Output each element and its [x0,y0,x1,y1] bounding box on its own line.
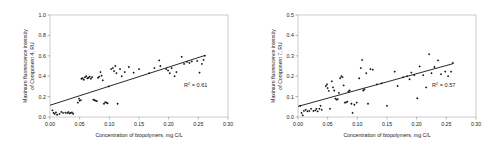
y-tick-label: 0.3 [287,53,294,59]
x-tick-label: 0.05 [75,121,85,127]
y-tick-label: 0.5 [287,12,294,18]
x-tick-label: 0.25 [193,121,203,127]
x-tick-label: 0.00 [45,121,55,127]
x-axis-title: Concentration of biopolymers, mg C/L [343,132,430,138]
r-squared-annotation: R2 = 0.57 [432,81,455,88]
y-tick-label: 0.0 [287,114,294,120]
y-tick-label: 0.6 [39,53,46,59]
x-tick-label: 0.10 [352,121,362,127]
scatter-plot-component-7: 0.000.050.100.150.200.250.300.00.10.20.3… [248,0,496,149]
y-tick-label: 0.8 [39,32,46,38]
y-axis-title-line2: of Component 7, RU [277,42,283,90]
r-squared-value: = 0.61 [190,82,207,88]
y-axis-title-line1: Maximum fluorescence intensity [22,29,28,103]
x-tick-label: 0.20 [412,121,422,127]
x-tick-label: 0.15 [382,121,392,127]
chart-panel-right: 0.000.050.100.150.200.250.300.00.10.20.3… [248,0,496,149]
x-tick-label: 0.10 [104,121,114,127]
x-tick-label: 0.25 [441,121,451,127]
y-tick-label: 0.0 [39,114,46,120]
x-tick-label: 0.00 [293,121,303,127]
two-panel-scatter-figure: 0.000.050.100.150.200.250.300.00.20.40.6… [0,0,496,149]
y-tick-label: 1.0 [39,12,46,18]
x-axis-title: Concentration of biopolymers, mg C/L [95,132,182,138]
r-squared-annotation: R2 = 0.61 [184,81,207,88]
y-tick-label: 0.4 [39,73,46,79]
y-tick-label: 0.1 [287,94,294,100]
plot-area-frame [298,15,476,117]
x-tick-label: 0.30 [471,121,481,127]
x-tick-label: 0.05 [323,121,333,127]
x-tick-label: 0.20 [164,121,174,127]
y-tick-label: 0.4 [287,32,294,38]
y-tick-label: 0.2 [287,73,294,79]
y-axis-title-line1: Maximum fluorescence intensity [270,29,276,103]
chart-panel-left: 0.000.050.100.150.200.250.300.00.20.40.6… [0,0,248,149]
r-squared-value: = 0.57 [438,82,455,88]
x-tick-label: 0.15 [134,121,144,127]
y-axis-title-line2: of Component 4, RU [29,42,35,90]
x-tick-label: 0.30 [223,121,233,127]
scatter-plot-component-4: 0.000.050.100.150.200.250.300.00.20.40.6… [0,0,248,149]
y-tick-label: 0.2 [39,94,46,100]
plot-area-frame [50,15,228,117]
